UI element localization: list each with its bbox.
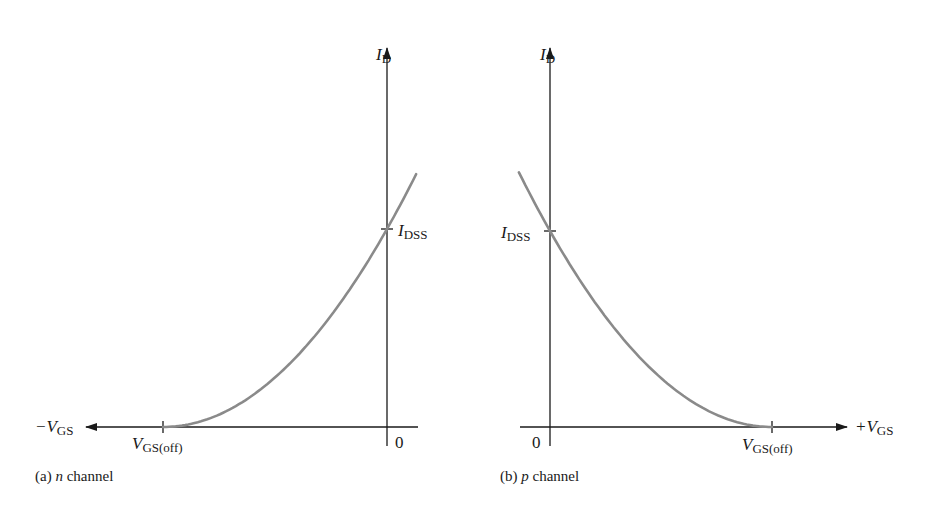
panel-b-p-channel: ID IDSS +VGS VGS(off) 0 (b) p channel xyxy=(500,45,893,485)
panel-a-transfer-curve xyxy=(163,174,416,427)
panel-a-id-label: ID xyxy=(375,45,391,66)
panel-a-vgs-label: −VGS xyxy=(35,417,73,438)
panel-b-caption: (b) p channel xyxy=(500,468,579,485)
panel-a-origin-label: 0 xyxy=(395,433,404,452)
panel-a-voff-label: VGS(off) xyxy=(132,434,183,455)
panel-b-transfer-curve xyxy=(519,172,772,427)
panel-b-origin-label: 0 xyxy=(532,433,541,452)
panel-b-id-label: ID xyxy=(539,45,555,66)
panel-b-idss-label: IDSS xyxy=(500,223,531,244)
panel-b-voff-label: VGS(off) xyxy=(742,435,793,456)
panel-b-vgs-label: +VGS xyxy=(855,417,893,438)
jfet-transfer-characteristics-figure: ID IDSS −VGS VGS(off) 0 (a) n channel ID… xyxy=(0,0,926,520)
panel-a-n-channel: ID IDSS −VGS VGS(off) 0 (a) n channel xyxy=(35,45,428,485)
panel-a-caption: (a) n channel xyxy=(35,468,113,485)
panel-a-idss-label: IDSS xyxy=(397,221,428,242)
